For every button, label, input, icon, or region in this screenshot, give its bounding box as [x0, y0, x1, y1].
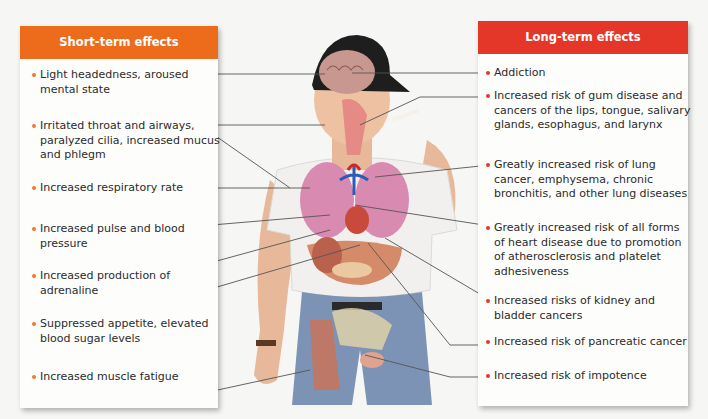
long-term-item-lung: Greatly increased risk of lung cancer, e… — [486, 158, 692, 202]
item-label: Irritated throat and airways, paralyzed … — [40, 119, 220, 161]
bullet-icon — [486, 340, 490, 344]
long-term-item-addiction: Addiction — [486, 66, 692, 81]
short-term-effects-title: Short-term effects — [20, 26, 218, 59]
long-term-effects-title: Long-term effects — [478, 21, 688, 54]
long-term-item-pancreatic: Increased risk of pancreatic cancer — [486, 335, 692, 350]
item-label: Increased respiratory rate — [40, 181, 183, 194]
item-label: Greatly increased risk of lung cancer, e… — [494, 158, 687, 200]
bullet-icon — [32, 375, 36, 379]
item-label: Light headedness, aroused mental state — [40, 68, 189, 96]
item-label: Increased production of adrenaline — [40, 269, 170, 297]
bullet-icon — [486, 299, 490, 303]
short-term-item-pulse: Increased pulse and blood pressure — [32, 222, 220, 251]
long-term-item-heart: Greatly increased risk of all forms of h… — [486, 221, 692, 279]
long-term-item-impotence: Increased risk of impotence — [486, 369, 692, 384]
smoker-anatomy-figure — [232, 30, 482, 410]
bullet-icon — [486, 71, 490, 75]
smoking-effects-diagram: Short-term effects Light headedness, aro… — [0, 0, 708, 419]
bullet-icon — [32, 73, 36, 77]
bullet-icon — [32, 322, 36, 326]
short-term-item-throat: Irritated throat and airways, paralyzed … — [32, 119, 220, 163]
short-term-item-respiratory: Increased respiratory rate — [32, 181, 220, 196]
bullet-icon — [486, 374, 490, 378]
short-term-item-appetite: Suppressed appetite, elevated blood suga… — [32, 317, 220, 346]
bullet-icon — [486, 94, 490, 98]
long-term-item-gum-cancer: Increased risk of gum disease and cancer… — [486, 89, 692, 133]
item-label: Increased risk of impotence — [494, 369, 647, 382]
bullet-icon — [32, 274, 36, 278]
bullet-icon — [32, 227, 36, 231]
item-label: Increased pulse and blood pressure — [40, 222, 185, 250]
short-term-item-muscle: Increased muscle fatigue — [32, 370, 220, 385]
item-label: Greatly increased risk of all forms of h… — [494, 221, 681, 278]
item-label: Increased risk of gum disease and cancer… — [494, 89, 690, 131]
bullet-icon — [32, 186, 36, 190]
bullet-icon — [486, 226, 490, 230]
bullet-icon — [486, 163, 490, 167]
long-term-item-kidney-bladder: Increased risks of kidney and bladder ca… — [486, 294, 692, 323]
item-label: Suppressed appetite, elevated blood suga… — [40, 317, 209, 345]
item-label: Addiction — [494, 66, 545, 79]
item-label: Increased muscle fatigue — [40, 370, 179, 383]
item-label: Increased risk of pancreatic cancer — [494, 335, 687, 348]
long-term-effects-panel: Long-term effects Addiction Increased ri… — [478, 21, 688, 406]
item-label: Increased risks of kidney and bladder ca… — [494, 294, 655, 322]
short-term-item-adrenaline: Increased production of adrenaline — [32, 269, 220, 298]
bullet-icon — [32, 124, 36, 128]
short-term-effects-panel: Short-term effects Light headedness, aro… — [20, 26, 218, 408]
short-term-item-brain: Light headedness, aroused mental state — [32, 68, 220, 97]
